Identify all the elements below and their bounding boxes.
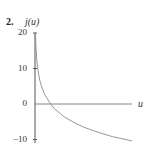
y-tick-label: 0 [5, 99, 27, 108]
y-tick-label: 10 [5, 64, 27, 73]
x-axis-label: u [138, 99, 143, 109]
j-curve [35, 35, 132, 141]
y-tick-label: −10 [5, 135, 27, 144]
chart [0, 0, 144, 150]
y-tick-label: 20 [5, 28, 27, 37]
problem-number: 2. [6, 17, 14, 27]
y-axis-label: j(u) [25, 17, 39, 27]
